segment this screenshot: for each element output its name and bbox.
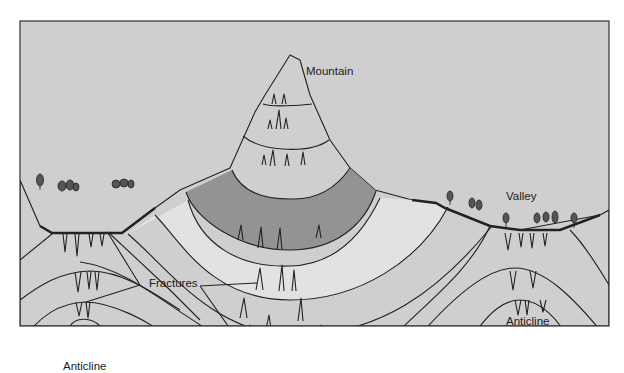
tree-icon (112, 179, 134, 188)
label-anticline-left: Anticline (63, 361, 106, 373)
label-valley: Valley (506, 191, 536, 203)
label-fractures: Fractures (149, 278, 198, 290)
label-mountain: Mountain (306, 66, 353, 78)
label-anticline-right: Anticline (506, 316, 549, 328)
tree-icon (534, 211, 558, 223)
